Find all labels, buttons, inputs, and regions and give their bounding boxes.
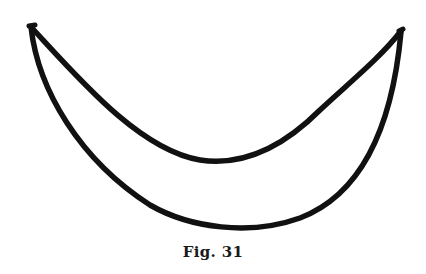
figure-caption: Fig. 31 [0, 243, 426, 261]
figure-page: Fig. 31 [0, 0, 426, 274]
crescent-diagram [0, 0, 426, 274]
crescent-right-tip [399, 29, 403, 31]
crescent-inner-curve [32, 28, 401, 161]
crescent-outer-curve [31, 27, 401, 228]
crescent-left-tip [29, 25, 35, 26]
